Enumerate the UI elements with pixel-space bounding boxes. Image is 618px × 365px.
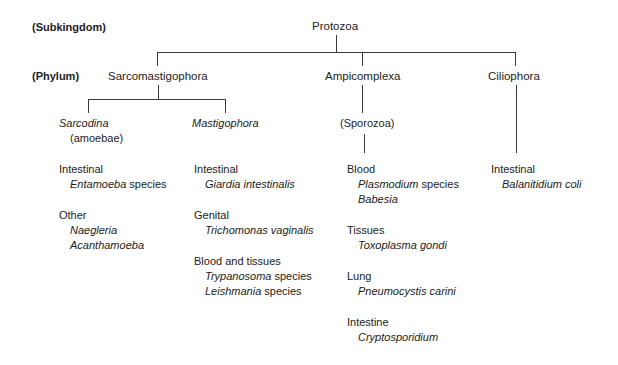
organism-genus: Naegleria: [70, 224, 117, 237]
site-label: Lung: [347, 270, 371, 283]
connector-ampicomplexa: [362, 52, 363, 66]
connector-ciliophora-sites: [516, 85, 517, 153]
connector-sarcomastigophora: [157, 52, 158, 66]
organism-suffix: species: [261, 285, 301, 297]
organism-genus: Acanthamoeba: [70, 239, 144, 252]
connector-root-stem: [336, 35, 337, 52]
organism-suffix: species: [419, 178, 459, 190]
node-ciliophora: Ciliophora: [488, 70, 540, 83]
connector-sarco-bar: [88, 99, 226, 100]
node-mastigophora: Mastigophora: [192, 117, 259, 130]
site-label: Tissues: [347, 224, 385, 237]
organism-entry: Trypanosoma species: [205, 270, 312, 283]
connector-sporozoa-sites: [364, 134, 365, 153]
node-sporozoa: (Sporozoa): [340, 117, 394, 130]
rank-label-subkingdom: (Subkingdom): [32, 21, 106, 34]
site-label: Other: [59, 209, 87, 222]
organism-genus: Cryptosporidium: [358, 331, 438, 344]
organism-genus: Balanitidium coli: [502, 178, 581, 191]
organism-genus: Entamoeba: [70, 178, 126, 190]
organism-genus: Trichomonas vaginalis: [205, 224, 314, 237]
site-label: Intestinal: [491, 163, 535, 176]
organism-genus: Giardia intestinalis: [205, 178, 295, 191]
connector-ciliophora: [515, 52, 516, 66]
connector-mastigophora: [225, 99, 226, 113]
node-ampicomplexa: Ampicomplexa: [325, 70, 400, 83]
organism-suffix: species: [126, 178, 166, 190]
organism-genus: Babesia: [358, 193, 398, 206]
site-label: Intestine: [347, 316, 389, 329]
connector-ampi-sporozoa: [362, 85, 363, 113]
organism-suffix: species: [271, 270, 311, 282]
organism-genus: Trypanosoma: [205, 270, 271, 282]
organism-genus: Pneumocystis carini: [358, 285, 456, 298]
organism-entry: Entamoeba species: [70, 178, 167, 191]
node-sarcodina: Sarcodina: [59, 117, 109, 130]
connector-phylum-bar: [157, 52, 515, 53]
organism-genus: Toxoplasma gondi: [358, 239, 447, 252]
organism-genus: Plasmodium: [358, 178, 419, 190]
node-sarcomastigophora: Sarcomastigophora: [108, 70, 208, 83]
site-label: Blood: [347, 163, 375, 176]
organism-genus: Leishmania: [205, 285, 261, 297]
site-label: Intestinal: [59, 163, 103, 176]
organism-entry: Plasmodium species: [358, 178, 459, 191]
site-label: Intestinal: [194, 163, 238, 176]
organism-entry: Leishmania species: [205, 285, 302, 298]
connector-sarcodina: [88, 99, 89, 113]
site-label: Blood and tissues: [194, 255, 281, 268]
rank-label-phylum: (Phylum): [32, 70, 79, 83]
node-sarcodina-note: (amoebae): [70, 132, 123, 145]
node-protozoa: Protozoa: [312, 20, 358, 33]
site-label: Genital: [194, 209, 229, 222]
connector-sarco-stem: [158, 85, 159, 99]
